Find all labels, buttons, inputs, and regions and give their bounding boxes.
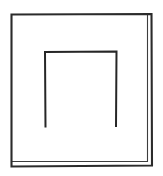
canvas-background (0, 0, 163, 176)
square-frame-with-arch-figure (0, 0, 163, 176)
drawing-canvas (0, 0, 163, 176)
